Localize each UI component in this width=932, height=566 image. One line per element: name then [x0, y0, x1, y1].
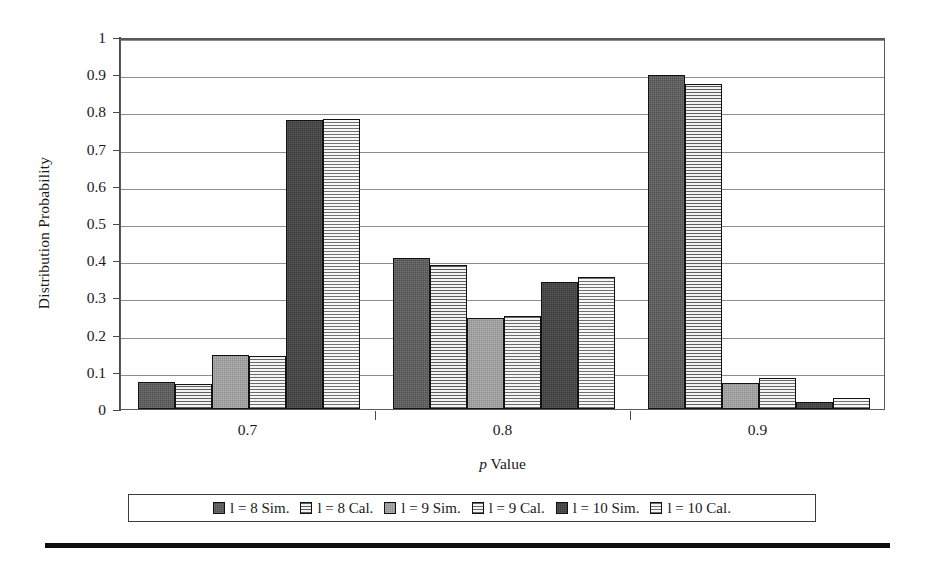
y-tick-label: 0.7 — [48, 140, 106, 158]
legend-swatch-icon — [213, 502, 225, 514]
bar — [722, 383, 759, 409]
bar — [212, 355, 249, 409]
plot-area — [120, 38, 885, 410]
y-tick-label: 0.8 — [48, 103, 106, 121]
bar — [759, 378, 796, 409]
x-tick-mark — [375, 411, 376, 420]
legend-label: l = 8 Cal. — [317, 500, 373, 517]
legend-entry: l = 10 Sim. — [556, 500, 640, 517]
bar — [578, 277, 615, 409]
figure: Distribution Probability 00.10.20.30.40.… — [0, 0, 932, 566]
legend-entry: l = 9 Sim. — [384, 500, 460, 517]
legend-entry: l = 9 Cal. — [472, 500, 545, 517]
legend-entry: l = 10 Cal. — [650, 500, 730, 517]
bar — [796, 402, 833, 409]
y-tick-label: 0.2 — [48, 326, 106, 344]
legend-entry: l = 8 Sim. — [213, 500, 289, 517]
x-axis-title-symbol: p — [479, 455, 487, 472]
x-tick-label: 0.8 — [443, 421, 563, 439]
y-tick-label: 0.4 — [48, 252, 106, 270]
x-tick-mark — [630, 411, 631, 420]
bars-layer — [121, 40, 884, 409]
y-tick-label: 1 — [48, 29, 106, 47]
y-tick-label: 0 — [48, 401, 106, 419]
x-tick-label: 0.7 — [188, 421, 308, 439]
y-tick-label: 0.6 — [48, 178, 106, 196]
legend-label: l = 10 Cal. — [667, 500, 730, 517]
bar — [648, 75, 685, 409]
legend-label: l = 8 Sim. — [230, 500, 289, 517]
bar — [138, 382, 175, 409]
bar — [323, 119, 360, 409]
legend-swatch-icon — [556, 502, 568, 514]
bar — [833, 398, 870, 409]
bar — [249, 356, 286, 409]
y-tick-label: 0.9 — [48, 66, 106, 84]
bar — [504, 316, 541, 409]
bar — [393, 258, 430, 409]
x-axis-title: p Value — [120, 455, 885, 473]
y-tick-label: 0.5 — [48, 215, 106, 233]
x-axis-title-rest: Value — [487, 455, 526, 472]
bar — [541, 282, 578, 409]
legend-swatch-icon — [650, 502, 662, 514]
bottom-rule — [45, 543, 890, 548]
bar — [286, 120, 323, 409]
legend-label: l = 10 Sim. — [573, 500, 640, 517]
legend-swatch-icon — [384, 502, 396, 514]
bar — [175, 384, 212, 409]
legend-label: l = 9 Cal. — [489, 500, 545, 517]
bar — [467, 318, 504, 409]
legend-swatch-icon — [472, 502, 484, 514]
y-tick-label: 0.1 — [48, 364, 106, 382]
legend-entry: l = 8 Cal. — [300, 500, 373, 517]
bar — [430, 265, 467, 409]
legend-swatch-icon — [300, 502, 312, 514]
y-tick-label: 0.3 — [48, 289, 106, 307]
legend-label: l = 9 Sim. — [401, 500, 460, 517]
bar — [685, 84, 722, 410]
chart-legend: l = 8 Sim.l = 8 Cal.l = 9 Sim.l = 9 Cal.… — [128, 494, 816, 522]
x-tick-label: 0.9 — [698, 421, 818, 439]
